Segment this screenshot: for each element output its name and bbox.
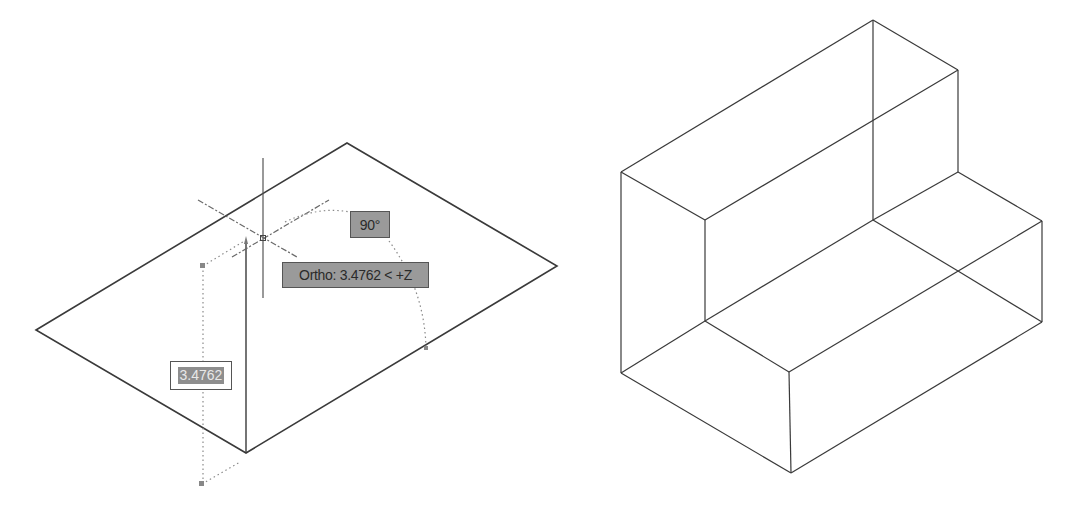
ortho-tooltip: Ortho: 3.4762 < +Z <box>282 262 429 288</box>
tracking-lines <box>202 210 426 484</box>
dynamic-input-field[interactable]: 3.4762 <box>170 361 232 390</box>
angle-tooltip: 90° <box>350 211 390 238</box>
l-shape-solid <box>621 20 1042 473</box>
dynamic-input-value: 3.4762 <box>178 367 225 384</box>
drawing-canvas[interactable] <box>0 0 1077 508</box>
base-polyline <box>36 143 557 453</box>
grip-markers <box>199 263 428 486</box>
